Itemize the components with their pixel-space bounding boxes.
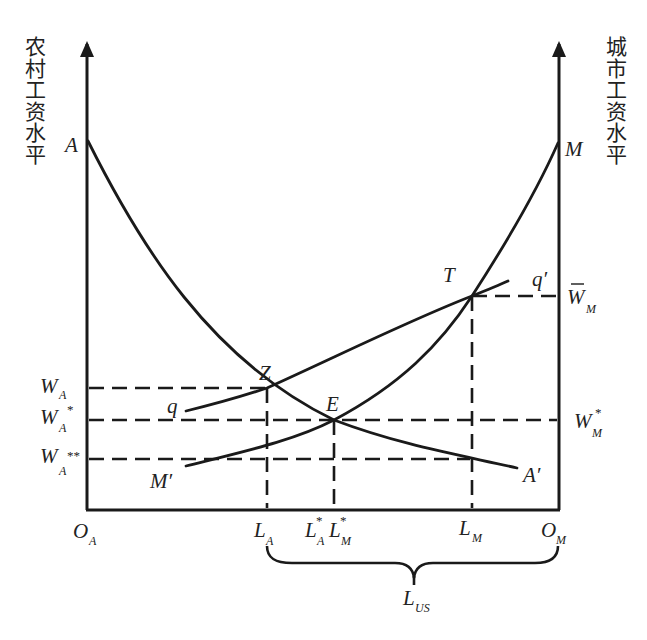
lm-star-label: L M *: [328, 513, 352, 548]
wa-label: W A: [40, 374, 67, 402]
svg-text:**: **: [67, 448, 80, 463]
label-q: q: [167, 394, 178, 418]
svg-text:O: O: [73, 519, 88, 543]
svg-text:M: M: [585, 302, 597, 316]
label-M: M: [564, 137, 584, 161]
svg-text:A: A: [58, 464, 67, 478]
label-M-prime: M′: [149, 469, 172, 493]
svg-text:A: A: [58, 388, 67, 402]
qq-curve: [186, 281, 508, 411]
svg-text:W: W: [574, 409, 594, 433]
right-axis-arrow-icon: [552, 41, 566, 57]
svg-text:L: L: [458, 516, 471, 540]
svg-text:A: A: [58, 421, 67, 435]
svg-text:*: *: [316, 513, 323, 528]
svg-text:*: *: [340, 513, 347, 528]
svg-text:M: M: [591, 426, 603, 440]
lus-label: L US: [402, 586, 430, 615]
point-T-label: T: [443, 263, 456, 287]
svg-text:*: *: [595, 405, 602, 420]
svg-text:W: W: [40, 374, 60, 398]
wa-double-star-label: W A **: [40, 444, 80, 478]
label-A-prime: A′: [521, 463, 541, 487]
svg-text:*: *: [67, 402, 74, 417]
urban-demand-curve: [186, 143, 558, 466]
svg-text:L: L: [328, 518, 341, 542]
svg-text:W: W: [567, 285, 587, 309]
svg-text:M: M: [555, 533, 567, 547]
svg-text:M: M: [471, 531, 483, 545]
svg-text:A: A: [265, 534, 274, 548]
la-star-label: L A *: [304, 513, 325, 548]
lm-label: L M: [458, 516, 483, 545]
wa-star-label: W A *: [40, 402, 74, 435]
svg-text:US: US: [415, 601, 430, 615]
left-axis-arrow-icon: [80, 41, 94, 57]
svg-text:L: L: [253, 518, 266, 542]
harris-todaro-diagram: A M A′ M′ q q′ Z E T W A W A * W A ** W …: [0, 0, 647, 640]
svg-text:W: W: [40, 444, 60, 468]
origin-left-label: O A: [73, 519, 97, 548]
svg-text:O: O: [541, 518, 556, 542]
svg-text:M: M: [340, 534, 352, 548]
svg-text:A: A: [316, 534, 325, 548]
svg-text:L: L: [304, 518, 317, 542]
label-A: A: [63, 133, 78, 157]
svg-text:L: L: [402, 586, 415, 610]
svg-text:W: W: [40, 405, 60, 429]
wm-bar-label: W M: [567, 284, 597, 316]
wm-star-label: W M *: [574, 405, 603, 440]
origin-right-label: O M: [541, 518, 567, 547]
point-Z-label: Z: [259, 361, 271, 385]
label-q-prime: q′: [532, 267, 548, 291]
unemployment-brace: [267, 546, 558, 578]
la-label: L A: [253, 518, 274, 548]
point-E-label: E: [325, 392, 339, 416]
svg-text:A: A: [88, 534, 97, 548]
axes: [80, 41, 566, 510]
